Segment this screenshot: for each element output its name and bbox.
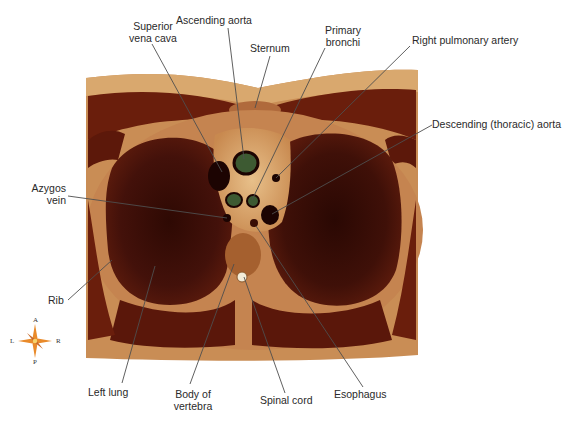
label-sternum: Sternum [250,42,290,54]
label-body-of-vertebra: Body of vertebra [170,388,216,412]
label-descending-aorta: Descending (thoracic) aorta [432,118,561,130]
label-line: vein [14,194,66,206]
label-ascending-aorta: Ascending aorta [176,14,252,26]
descending-aorta [261,205,279,225]
label-line: vertebra [170,400,216,412]
compass-posterior: P [33,358,37,366]
esophagus [250,219,258,227]
label-line: Body of [170,388,216,400]
compass-left: L [10,337,14,345]
right-pulmonary-artery [272,174,280,182]
label-line: Azygos [14,182,66,194]
ascending-aorta [234,152,258,174]
label-spinal-cord: Spinal cord [260,394,313,406]
azygos-vein [223,214,231,222]
label-line: vena cava [113,32,193,44]
label-left-lung: Left lung [88,386,128,398]
label-line: Primary [318,24,368,36]
left-primary-bronchus [247,195,259,207]
thorax-cross-section-image [0,0,571,421]
compass-right: R [56,337,61,345]
label-rib: Rib [48,294,64,306]
right-primary-bronchus [226,193,242,207]
label-right-pulmonary-artery: Right pulmonary artery [412,34,518,46]
body-of-vertebra [225,233,261,277]
spinal-cord [237,272,247,282]
superior-vena-cava [208,161,230,191]
label-line: bronchi [318,36,368,48]
compass-rose: A P L R [14,318,56,364]
label-primary-bronchi: Primary bronchi [318,24,368,48]
label-azygos-vein: Azygos vein [14,182,66,206]
label-esophagus: Esophagus [334,388,387,400]
compass-anterior: A [33,316,38,324]
